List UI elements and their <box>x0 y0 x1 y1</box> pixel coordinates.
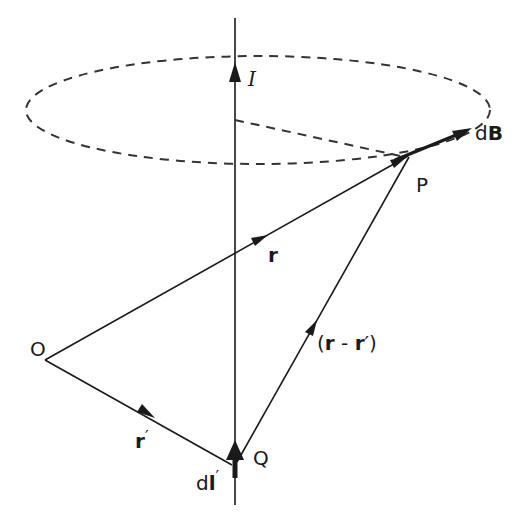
label-vector-r: r <box>268 243 278 267</box>
line-element-arrow-icon <box>226 440 244 460</box>
label-vector-r-prime: r′ <box>135 427 149 453</box>
label-point-Q: Q <box>253 446 269 470</box>
label-origin-O: O <box>30 337 46 361</box>
dB-arrow-icon <box>452 128 472 141</box>
vector-r <box>45 156 408 360</box>
vector-diff-arrow-icon <box>305 320 317 336</box>
label-line-element: dl′ <box>196 467 220 495</box>
biot-savart-diagram: I dB P r (r - r′) O r′ Q dl′ <box>0 0 519 523</box>
label-dB: dB <box>475 121 503 145</box>
radius-dashed-line <box>235 120 405 157</box>
label-current: I <box>247 67 257 91</box>
vector-r-minus-r-prime <box>237 157 409 462</box>
current-arrow-icon <box>229 62 241 82</box>
label-point-P: P <box>416 173 428 197</box>
vector-r-arrow-icon <box>251 235 268 246</box>
label-vector-diff: (r - r′) <box>317 331 377 355</box>
